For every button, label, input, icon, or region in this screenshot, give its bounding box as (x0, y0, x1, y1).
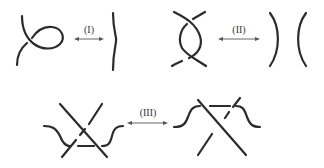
move-2-arrow: (II) (218, 24, 260, 41)
move-1-arrow: (I) (74, 24, 104, 41)
move-2-label: (II) (232, 24, 245, 36)
move-3-right-configuration (174, 98, 260, 155)
move-1-label: (I) (84, 24, 94, 36)
move-1-right-strand (113, 13, 116, 70)
move-3-left-configuration (44, 104, 123, 157)
move-3-label: (III) (140, 107, 157, 119)
move-2-right-strands (270, 13, 306, 66)
move-1-left-loop (17, 16, 63, 65)
move-2-left-strands (172, 12, 206, 66)
reidemeister-diagram: (I) (II) (III) (0, 0, 324, 168)
move-3-arrow: (III) (127, 107, 168, 125)
